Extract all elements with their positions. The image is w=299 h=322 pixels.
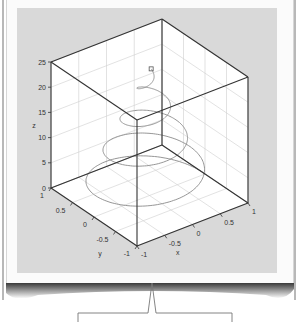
tick-mark (92, 217, 94, 220)
tick-mark (135, 246, 137, 249)
y-tick-label: 0 (83, 221, 87, 228)
callout-bracket (78, 283, 232, 322)
z-tick-label: 10 (38, 134, 46, 141)
helix-3d-chart: 0510152025z-1-0.500.51y-1-0.500.51x (0, 0, 299, 322)
tick-mark (49, 188, 51, 191)
x-tick-label: 1 (252, 208, 256, 215)
z-tick-label: 0 (42, 185, 46, 192)
x-tick-label: -0.5 (169, 240, 181, 247)
x-axis-label: x (176, 249, 180, 256)
y-tick-label: -1 (124, 250, 130, 257)
tick-mark (248, 203, 250, 206)
x-tick-label: 0 (197, 230, 201, 237)
z-tick-label: 15 (38, 109, 46, 116)
y-axis-label: y (98, 250, 102, 258)
z-tick-label: 25 (38, 59, 46, 66)
y-tick-label: 0.5 (56, 207, 66, 214)
tick-mark (220, 214, 222, 217)
x-tick-label: -1 (141, 251, 147, 258)
tick-mark (165, 235, 167, 238)
y-tick-label: -0.5 (96, 236, 108, 243)
z-tick-label: 5 (42, 159, 46, 166)
y-tick-label: 1 (40, 192, 44, 199)
tick-mark (193, 225, 195, 228)
tick-mark (114, 232, 116, 235)
z-tick-label: 20 (38, 84, 46, 91)
z-axis-label: z (32, 122, 36, 129)
tick-mark (71, 203, 73, 206)
x-tick-label: 0.5 (224, 219, 234, 226)
tick-mark (137, 246, 139, 249)
